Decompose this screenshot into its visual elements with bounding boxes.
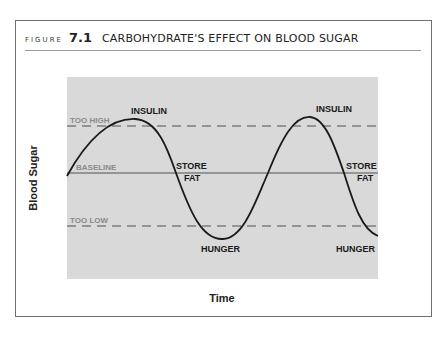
x-axis-label: Time bbox=[209, 292, 234, 304]
y-axis-label: Blood Sugar bbox=[27, 145, 39, 210]
store-label-2: STORE bbox=[346, 161, 377, 171]
insulin-label-2: INSULIN bbox=[316, 104, 352, 114]
hunger-label-2: HUNGER bbox=[336, 244, 376, 254]
too-low-label: TOO LOW bbox=[70, 216, 109, 225]
baseline-label: BASELINE bbox=[76, 163, 117, 172]
fat-label-1: FAT bbox=[184, 173, 201, 183]
insulin-label-1: INSULIN bbox=[131, 106, 167, 116]
fat-label-2: FAT bbox=[357, 173, 374, 183]
too-high-label: TOO HIGH bbox=[70, 116, 110, 125]
store-label-1: STORE bbox=[176, 161, 207, 171]
blood-sugar-chart: TOO HIGH BASELINE TOO LOW INSULIN STORE … bbox=[0, 0, 448, 340]
hunger-label-1: HUNGER bbox=[201, 244, 241, 254]
